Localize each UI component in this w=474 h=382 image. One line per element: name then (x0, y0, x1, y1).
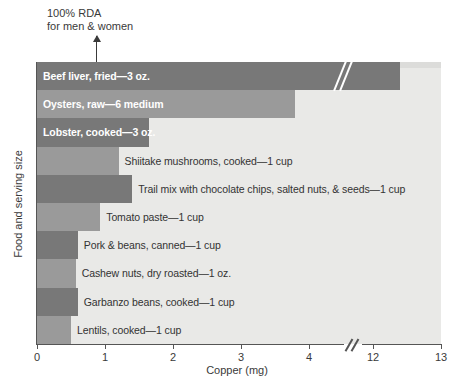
rda-arrow-icon (96, 36, 97, 62)
x-axis-break-icon (344, 338, 362, 352)
bar-row: Trail mix with chocolate chips, salted n… (37, 175, 441, 203)
x-axis-tick-label: 2 (170, 351, 176, 363)
bar (37, 203, 100, 231)
x-axis-tick (37, 344, 38, 349)
bar-label: Lobster, cooked—3 oz. (43, 126, 155, 138)
plot-area: Beef liver, fried—3 oz.Oysters, raw—6 me… (37, 62, 441, 344)
bar-label: Pork & beans, canned—1 cup (84, 239, 221, 251)
x-axis-tick-label: 12 (367, 351, 379, 363)
bar-row: Tomato paste—1 cup (37, 203, 441, 231)
bar (37, 288, 78, 316)
y-axis-line (36, 62, 37, 345)
bar-label: Garbanzo beans, cooked—1 cup (84, 296, 235, 308)
bar-row: Lobster, cooked—3 oz. (37, 118, 441, 146)
bar (37, 147, 119, 175)
bar-label: Trail mix with chocolate chips, salted n… (138, 183, 405, 195)
bar-row: Beef liver, fried—3 oz. (37, 62, 441, 90)
bar-label: Oysters, raw—6 medium (43, 98, 163, 110)
bar-row: Shiitake mushrooms, cooked—1 cup (37, 147, 441, 175)
bar (37, 316, 71, 344)
bar-label: Shiitake mushrooms, cooked—1 cup (125, 155, 293, 167)
bar-label: Cashew nuts, dry roasted—1 oz. (82, 267, 231, 279)
bar-row: Pork & beans, canned—1 cup (37, 231, 441, 259)
bar-label: Tomato paste—1 cup (106, 211, 203, 223)
x-axis-tick-label: 3 (238, 351, 244, 363)
bar-row: Cashew nuts, dry roasted—1 oz. (37, 259, 441, 287)
x-axis-tick (105, 344, 106, 349)
x-axis-tick-label: 13 (435, 351, 447, 363)
bar-row: Garbanzo beans, cooked—1 cup (37, 288, 441, 316)
bar-label: Beef liver, fried—3 oz. (43, 70, 150, 82)
x-axis-tick (241, 344, 242, 349)
copper-bar-chart: 100% RDA for men & women Beef liver, fri… (0, 0, 474, 382)
bar-label: Lentils, cooked—1 cup (77, 324, 181, 336)
y-axis-label: Food and serving size (12, 104, 24, 304)
x-axis-tick (173, 344, 174, 349)
bar (37, 231, 78, 259)
x-axis-line (36, 344, 442, 345)
bar (37, 259, 76, 287)
x-axis-tick (309, 344, 310, 349)
x-axis-label: Copper (mg) (0, 364, 474, 376)
x-axis-tick (441, 344, 442, 349)
bar-row: Lentils, cooked—1 cup (37, 316, 441, 344)
rda-annotation-line2: for men & women (47, 20, 133, 33)
x-axis-tick-label: 4 (306, 351, 312, 363)
bar-row: Oysters, raw—6 medium (37, 90, 441, 118)
bar (37, 175, 132, 203)
rda-annotation-line1: 100% RDA (47, 7, 133, 20)
x-axis-tick-label: 1 (102, 351, 108, 363)
rda-annotation: 100% RDA for men & women (47, 7, 133, 33)
x-axis-tick-label: 0 (34, 351, 40, 363)
x-axis-tick (373, 344, 374, 349)
